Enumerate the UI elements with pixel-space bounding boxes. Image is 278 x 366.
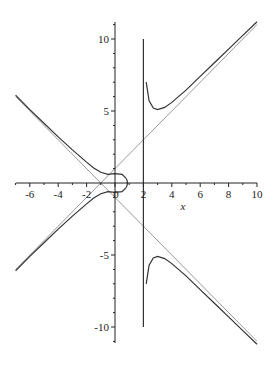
series-1 [16,97,257,342]
x-tick-label: 2 [141,188,147,200]
series-3 [16,95,127,179]
x-tick-label: 8 [226,188,232,200]
x-ticks: -6-4-20246810 [16,183,263,200]
x-tick-label: 6 [197,188,203,200]
series-6 [146,256,257,344]
y-tick-label: -10 [94,321,109,333]
series-5 [146,22,257,110]
y-tick-label: 10 [98,33,110,45]
y-tick-label: 5 [104,105,110,117]
x-tick-label: 4 [169,188,175,200]
x-axis-title: x [180,200,186,212]
series-0 [16,25,257,270]
axes-layer: -6-4-20246810 -10-5510 x [16,22,263,343]
x-tick-label: -4 [54,188,64,200]
x-tick-label: -2 [82,188,91,200]
plot-canvas: -6-4-20246810 -10-5510 x [0,0,278,366]
x-tick-label: -6 [25,188,35,200]
x-tick-label: 10 [252,188,264,200]
y-tick-label: -5 [100,249,110,261]
x-tick-label: 0 [113,188,119,200]
